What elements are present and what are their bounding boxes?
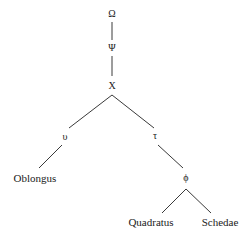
edge-chi-tau	[112, 95, 154, 128]
node-chi: X	[108, 81, 115, 91]
node-oblongus: Oblongus	[14, 173, 57, 184]
node-schedae: Schedae	[202, 217, 239, 228]
stemma-edges	[0, 0, 249, 238]
edge-upsilon-oblongus	[39, 145, 62, 168]
edge-phi-quadratus	[162, 189, 186, 213]
node-omega: Ω	[108, 9, 115, 19]
node-phi: ϕ	[183, 173, 188, 183]
node-quadratus: Quadratus	[128, 217, 173, 228]
edge-chi-upsilon	[69, 95, 112, 128]
edge-phi-schedae	[186, 189, 211, 213]
node-upsilon: υ	[63, 132, 68, 142]
node-tau: τ	[153, 131, 157, 141]
edge-tau-phi	[158, 145, 183, 168]
node-psi: Ψ	[108, 43, 115, 53]
